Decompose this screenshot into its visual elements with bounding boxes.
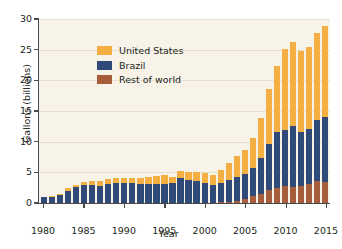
bar-segment (226, 202, 232, 203)
bar-segment (250, 168, 256, 196)
legend: United States Brazil Rest of world (97, 45, 183, 89)
bar-segment (185, 180, 191, 203)
bar-segment (290, 126, 296, 187)
y-axis-tick-label: 20 (8, 74, 32, 85)
bar-2011 (290, 19, 296, 203)
bar-series-group (39, 19, 330, 203)
bar-segment (57, 195, 63, 203)
bar-segment (177, 171, 183, 179)
legend-label-rest-of-world: Rest of world (119, 74, 181, 85)
x-axis-tick (124, 203, 125, 208)
bar-segment (73, 187, 79, 203)
bar-segment (242, 150, 248, 174)
bar-segment (210, 175, 216, 185)
bar-segment (322, 26, 328, 117)
bar-2000 (202, 19, 208, 203)
bar-segment (185, 172, 191, 181)
bar-segment (298, 51, 304, 132)
y-axis-tick-label: 10 (8, 136, 32, 147)
bar-segment (290, 42, 296, 127)
y-axis-tick-label: 15 (8, 105, 32, 116)
bar-segment (161, 175, 167, 184)
bar-2014 (314, 19, 320, 203)
legend-label-united-states: United States (119, 45, 183, 56)
bar-segment (282, 186, 288, 203)
bar-segment (177, 178, 183, 203)
bar-1982 (57, 19, 63, 203)
bar-segment (65, 191, 71, 203)
legend-label-brazil: Brazil (119, 60, 146, 71)
legend-swatch-rest-of-world (97, 75, 112, 84)
bar-segment (306, 47, 312, 129)
y-axis-tick (34, 110, 39, 111)
bar-segment (129, 183, 135, 203)
y-axis-tick-label: 5 (8, 166, 32, 177)
bar-segment (121, 183, 127, 203)
bar-2006 (250, 19, 256, 203)
bar-segment (298, 132, 304, 186)
legend-item-rest-of-world: Rest of world (97, 74, 183, 85)
bar-segment (145, 177, 151, 184)
bar-segment (145, 184, 151, 203)
bar-2002 (218, 19, 224, 203)
x-axis-tick (326, 203, 327, 208)
bar-1984 (73, 19, 79, 203)
y-axis-tick-label: 25 (8, 44, 32, 55)
y-axis-tick-label: 30 (8, 13, 32, 24)
x-axis-tick (245, 203, 246, 208)
bar-segment (282, 49, 288, 130)
bar-2003 (226, 19, 232, 203)
bar-1983 (65, 19, 71, 203)
bar-1981 (49, 19, 55, 203)
bar-segment (250, 138, 256, 168)
bar-segment (193, 172, 199, 181)
bar-segment (290, 187, 296, 203)
bar-1980 (41, 19, 47, 203)
bar-1985 (81, 19, 87, 203)
bar-segment (161, 184, 167, 203)
bar-segment (202, 183, 208, 203)
bar-segment (266, 190, 272, 203)
bar-segment (169, 183, 175, 203)
bar-segment (298, 186, 304, 203)
bar-segment (234, 156, 240, 177)
y-axis-tick-label: 0 (8, 197, 32, 208)
bar-segment (266, 144, 272, 190)
bar-segment (49, 197, 55, 203)
bar-segment (113, 183, 119, 203)
bar-segment (105, 184, 111, 203)
bar-2012 (298, 19, 304, 203)
legend-item-brazil: Brazil (97, 60, 183, 71)
bar-segment (153, 184, 159, 203)
bar-segment (218, 170, 224, 183)
bar-segment (258, 194, 264, 203)
bar-segment (314, 120, 320, 181)
bar-segment (314, 181, 320, 203)
bar-segment (226, 163, 232, 180)
legend-swatch-united-states (97, 46, 112, 55)
bar-2013 (306, 19, 312, 203)
bar-segment (218, 202, 224, 203)
bar-2010 (282, 19, 288, 203)
x-axis-tick (164, 203, 165, 208)
bar-segment (97, 186, 103, 203)
bar-segment (250, 196, 256, 203)
y-axis-tick (34, 80, 39, 81)
y-axis-tick (34, 172, 39, 173)
bar-2008 (266, 19, 272, 203)
bar-2001 (210, 19, 216, 203)
bar-segment (322, 117, 328, 182)
bar-1998 (185, 19, 191, 203)
bar-2005 (242, 19, 248, 203)
y-axis-tick (34, 141, 39, 142)
x-axis-tick (205, 203, 206, 208)
y-axis-tick (34, 202, 39, 203)
bar-segment (218, 183, 224, 203)
bar-segment (274, 132, 280, 188)
y-axis-tick (34, 18, 39, 19)
bar-segment (314, 33, 320, 121)
bar-segment (226, 180, 232, 201)
bar-2009 (274, 19, 280, 203)
bar-2007 (258, 19, 264, 203)
